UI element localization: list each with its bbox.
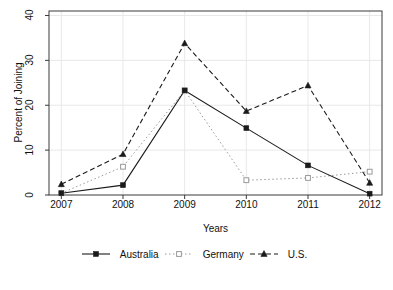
x-tick-label-2011: 2011: [288, 199, 328, 210]
x-tick-label-2012: 2012: [350, 199, 390, 210]
y-tick-label-40: 40: [19, 9, 41, 21]
y-tick-label-20: 20: [19, 99, 41, 111]
legend-label: Australia: [115, 249, 164, 260]
plot-frame: [49, 11, 382, 195]
x-tick-label-2010: 2010: [226, 199, 266, 210]
y-tick-label-0: 0: [19, 189, 41, 201]
x-axis-title: Years: [49, 218, 382, 236]
chart-legend: AustraliaGermanyU.S.: [0, 248, 393, 260]
legend-label: Germany: [198, 249, 249, 260]
x-tick-label-2007: 2007: [41, 199, 81, 210]
y-tick-label-10: 10: [19, 144, 41, 156]
legend-entry-us: U.S.: [249, 248, 312, 260]
series-lines: [61, 43, 369, 193]
x-axis-title-text: Years: [203, 223, 228, 234]
x-tick-label-2008: 2008: [103, 199, 143, 210]
legend-label: U.S.: [283, 249, 312, 260]
y-tick-label-30: 30: [19, 54, 41, 66]
plot-canvas: [0, 0, 393, 290]
x-tick-label-2009: 2009: [165, 199, 205, 210]
legend-entry-australia: Australia: [81, 248, 164, 260]
legend-key-filled-triangle-icon: [249, 248, 279, 260]
legend-key-open-square-icon: [164, 248, 194, 260]
series-markers: [58, 40, 372, 196]
chart-figure: Percent of Joining Years 200720082009201…: [0, 0, 393, 290]
gridlines: [49, 11, 382, 195]
legend-key-filled-square-icon: [81, 248, 111, 260]
legend-entry-germany: Germany: [164, 248, 249, 260]
